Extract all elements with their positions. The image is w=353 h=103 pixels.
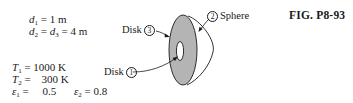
figure-p8-93: d1 = 1 m d2 = d3 = 4 m T1 = 1000 K T2 = … [0, 0, 353, 103]
figure-caption: FIG. P8-93 [289, 9, 345, 21]
label-disk-1: Disk1 [104, 66, 137, 78]
circled-number-2: 2 [207, 11, 218, 22]
given-d2-d3: d2 = d3 = 4 m [29, 25, 87, 37]
disk-3-arrowhead [165, 34, 170, 38]
given-T1: T1 = 1000 K [12, 61, 66, 73]
circled-number-1: 1 [126, 67, 137, 78]
label-disk-3: Disk3 [122, 24, 155, 36]
circled-number-3: 3 [144, 25, 155, 36]
given-e1: ε1 = 0.5 [12, 85, 56, 97]
disk-1-hole [176, 42, 183, 61]
given-e2: ε2 = 0.8 [74, 85, 107, 97]
label-sphere-2: 2Sphere [207, 10, 249, 22]
given-T2: T2 = 300 K [12, 73, 69, 85]
given-d1: d1 = 1 m [29, 13, 67, 25]
